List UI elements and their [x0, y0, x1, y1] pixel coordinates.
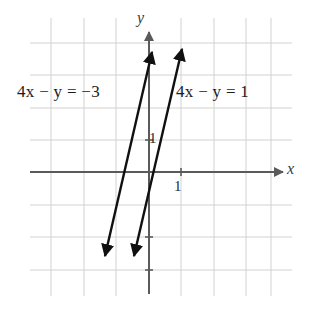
x-axis-label: x [287, 160, 294, 178]
equation-label-line2: 4x − y = 1 [176, 82, 249, 102]
graph-figure: 4x − y = −3 4x − y = 1 y x 1 1 [0, 0, 320, 313]
y-axis-label: y [137, 9, 144, 27]
x-axis-unit-tick-label: 1 [174, 178, 182, 195]
y-axis-unit-tick-label: 1 [149, 130, 157, 147]
equation-label-line1: 4x − y = −3 [17, 82, 100, 102]
coordinate-plane [0, 0, 320, 313]
line-4x-minus-y-equals-1 [134, 49, 182, 256]
line-4x-minus-y-equals-neg3 [105, 52, 152, 256]
grid-horizontal-lines [30, 43, 292, 270]
grid-vertical-lines [51, 18, 271, 296]
